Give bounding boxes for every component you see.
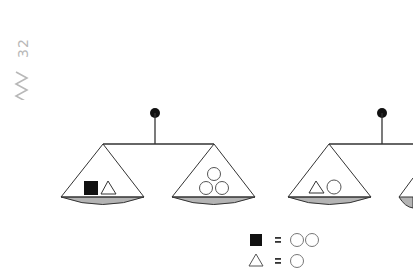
circle-icon — [200, 182, 213, 195]
left-pan — [288, 144, 371, 205]
filled-square-icon — [250, 234, 262, 246]
triangle-icon — [309, 181, 324, 193]
legend-row-square — [250, 234, 319, 247]
circle-icon — [327, 180, 341, 194]
circle-icon — [306, 234, 319, 247]
legend — [249, 234, 319, 268]
filled-square-icon — [84, 181, 98, 195]
triangle-icon — [249, 254, 263, 266]
circle-icon — [291, 234, 304, 247]
circle-icon — [291, 255, 304, 268]
right-pan — [172, 144, 255, 205]
right-pan-partial — [399, 178, 413, 208]
circle-icon — [208, 168, 221, 181]
scale-1 — [61, 108, 255, 205]
triangle-icon — [101, 181, 116, 194]
scales-diagram — [0, 0, 413, 276]
balance-puzzle-page: 32 — [0, 0, 413, 276]
scale-2 — [288, 108, 413, 208]
legend-row-triangle — [249, 254, 304, 268]
left-pan — [61, 144, 144, 205]
circle-icon — [216, 182, 229, 195]
